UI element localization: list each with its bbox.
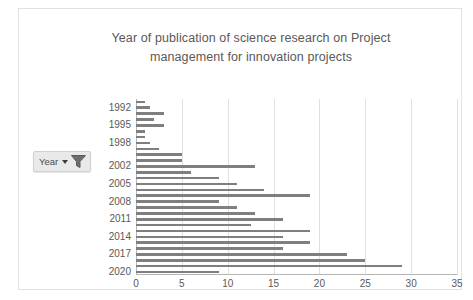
- bar: [136, 230, 310, 233]
- bar: [136, 101, 145, 104]
- bar: [136, 189, 264, 192]
- slicer-label: Year: [39, 156, 58, 167]
- bar: [136, 112, 164, 115]
- value-axis-tick-label: 30: [406, 278, 417, 290]
- bar: [136, 124, 164, 127]
- chart-title-line-2: management for innovation projects: [71, 48, 431, 67]
- bar: [136, 159, 182, 162]
- year-slicer-button[interactable]: Year: [33, 151, 91, 172]
- value-axis-tick-label: 0: [133, 278, 139, 290]
- gridline: [457, 99, 458, 275]
- category-axis-tick-label: 2002: [109, 161, 131, 171]
- bar: [136, 136, 145, 139]
- chart-title: Year of publication of science research …: [71, 29, 431, 67]
- category-axis-tick-label: 2017: [109, 249, 131, 259]
- bar-series: [136, 99, 457, 275]
- funnel-filter-icon[interactable]: [70, 154, 87, 169]
- category-axis-tick-label: 2008: [109, 197, 131, 207]
- value-axis-labels: 05101520253035: [136, 278, 457, 292]
- value-axis-tick-label: 20: [314, 278, 325, 290]
- bar-row[interactable]: [136, 269, 219, 275]
- bar: [136, 206, 237, 209]
- bar: [136, 118, 154, 121]
- chart-screenshot: Year of publication of science research …: [0, 0, 473, 300]
- bar: [136, 148, 159, 151]
- bar: [136, 142, 150, 145]
- bar: [136, 236, 283, 239]
- value-axis-tick-label: 15: [268, 278, 279, 290]
- category-axis-tick-label: 2020: [109, 267, 131, 277]
- bar: [136, 130, 145, 133]
- bar: [136, 165, 255, 168]
- plot-area: [136, 99, 457, 275]
- category-axis-tick-label: 1995: [109, 120, 131, 130]
- bar: [136, 218, 283, 221]
- category-axis-tick-label: 1998: [109, 138, 131, 148]
- bar: [136, 177, 219, 180]
- bar: [136, 224, 251, 227]
- bar: [136, 194, 310, 197]
- value-axis-tick-label: 10: [222, 278, 233, 290]
- value-axis-tick-label: 25: [360, 278, 371, 290]
- bar: [136, 241, 310, 244]
- value-axis-tick-label: 35: [451, 278, 462, 290]
- category-axis-tick-label: 2005: [109, 179, 131, 189]
- bar: [136, 106, 150, 109]
- bar: [136, 247, 283, 250]
- bar: [136, 183, 237, 186]
- bar: [136, 171, 191, 174]
- category-axis-labels: 1992199519982002200520082011201420172020: [79, 99, 131, 275]
- bar: [136, 259, 365, 262]
- category-axis-tick-label: 1992: [109, 103, 131, 113]
- category-axis-tick-label: 2011: [109, 214, 131, 224]
- bar: [136, 153, 182, 156]
- value-axis-tick-label: 5: [179, 278, 185, 290]
- bar: [136, 265, 402, 268]
- chart-container[interactable]: Year of publication of science research …: [18, 8, 462, 290]
- bar: [136, 271, 219, 274]
- bar: [136, 200, 219, 203]
- bar: [136, 253, 347, 256]
- chevron-down-icon[interactable]: [62, 160, 68, 164]
- chart-title-line-1: Year of publication of science research …: [71, 29, 431, 48]
- category-axis-tick-label: 2014: [109, 232, 131, 242]
- bar: [136, 212, 255, 215]
